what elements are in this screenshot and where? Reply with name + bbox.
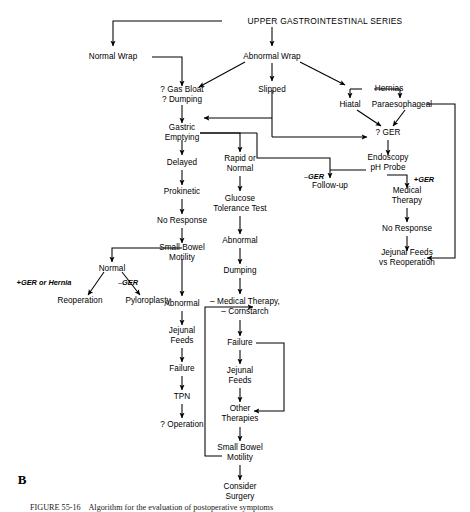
node-medical-therapy[interactable]: Medical Therapy [392,186,422,206]
node-ger-question[interactable]: ? GER [376,128,401,138]
edge-label-plus-ger-or-hernia: +GER or Hernia [17,279,72,288]
figure-panel: UPPER GASTROINTESTINAL SERIES Normal Wra… [0,0,470,512]
node-gas-bloat-dumping[interactable]: ? Gas Bloat ? Dumping [160,85,203,105]
node-tpn[interactable]: TPN [174,392,191,402]
node-upper-gi-series[interactable]: UPPER GASTROINTESTINAL SERIES [248,16,403,26]
node-failure-center[interactable]: Failure [227,338,252,348]
node-pyloroplasty[interactable]: Pyloroplasty [125,296,170,306]
node-hernias[interactable]: Hernias [375,84,404,94]
node-dumping[interactable]: Dumping [223,266,256,276]
node-endoscopy-ph-probe[interactable]: Endoscopy pH Probe [368,153,409,173]
node-normal[interactable]: Normal [99,264,126,274]
node-small-bowel-motility-lower[interactable]: Small Bowel Motility [217,443,263,463]
node-rapid-or-normal[interactable]: Rapid or Normal [224,154,255,174]
node-glucose-tolerance-test[interactable]: Glucose Tolerance Test [213,194,266,214]
node-slipped[interactable]: Slipped [258,85,286,95]
figure-caption: FIGURE 55-16 Algorithm for the evaluatio… [30,503,450,512]
node-prokinetic[interactable]: Prokinetic [164,187,200,197]
node-jejunal-feeds-left[interactable]: Jejunal Feeds [169,326,195,346]
node-medical-therapy-cornstarch[interactable]: – Medical Therapy, – Cornstarch [210,297,280,317]
node-no-response-left[interactable]: No Response [157,216,207,226]
panel-letter-b: B [18,472,27,488]
node-gastric-emptying[interactable]: Gastric Emptying [165,123,200,143]
node-jejunal-feeds-vs-reoperation[interactable]: Jejunal Feeds vs Reoperation [379,248,435,268]
node-normal-wrap[interactable]: Normal Wrap [89,52,138,62]
node-other-therapies[interactable]: Other Therapies [222,404,259,424]
node-jejunal-feeds-center[interactable]: Jejunal Feeds [227,366,253,386]
node-small-bowel-motility-upper[interactable]: Small Bowel Motility [159,243,205,263]
edge-label-minus-ger-pyloroplasty: –GER [118,279,138,288]
node-consider-surgery[interactable]: Consider Surgery [223,482,256,502]
node-paraesophageal[interactable]: Paraesophageal [372,100,432,110]
node-failure-left[interactable]: Failure [169,364,194,374]
node-no-response-right[interactable]: No Response [382,224,432,234]
node-abnormal-wrap[interactable]: Abnormal Wrap [243,52,300,62]
node-delayed[interactable]: Delayed [167,158,197,168]
node-hiatal[interactable]: Hiatal [339,100,360,110]
node-abnormal-center-upper[interactable]: Abnormal [222,236,257,246]
node-reoperation[interactable]: Reoperation [57,296,102,306]
edge-label-minus-ger-endoscopy: –GER [304,173,324,182]
edge-label-plus-ger: +GER [414,176,434,185]
node-question-operation[interactable]: ? Operation [160,420,203,430]
node-follow-up[interactable]: Follow-up [312,181,348,191]
